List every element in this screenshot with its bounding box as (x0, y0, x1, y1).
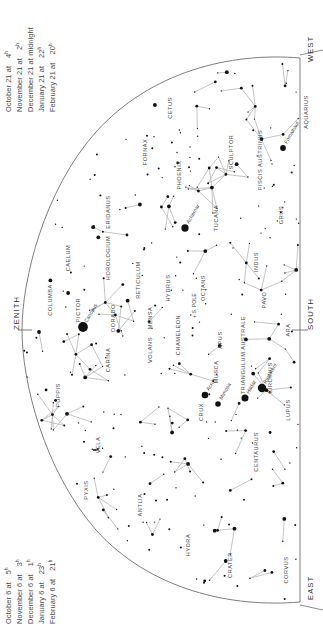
field-star (70, 372, 71, 373)
field-star (35, 337, 37, 339)
field-star (179, 262, 181, 264)
field-star (71, 374, 73, 376)
field-star (203, 580, 206, 583)
field-star (271, 571, 274, 574)
constellation-line (169, 206, 175, 222)
constellation-line (72, 354, 76, 375)
field-star (27, 376, 28, 377)
field-star (260, 232, 261, 233)
star-label-achernar: Achernar (185, 203, 201, 224)
field-star (165, 228, 166, 229)
bright-star-acrux (202, 392, 209, 399)
field-star (258, 277, 260, 279)
field-star (210, 186, 214, 190)
field-star (63, 425, 65, 427)
field-star (190, 170, 191, 171)
field-star (141, 446, 142, 447)
field-star (176, 152, 177, 153)
field-star (231, 420, 232, 421)
field-star (267, 337, 271, 341)
field-star (281, 482, 284, 485)
constellation-line (212, 174, 226, 187)
constellation-label-hydra: HYDRA (185, 534, 191, 556)
field-star (272, 186, 273, 187)
field-star (196, 278, 197, 279)
field-star (122, 335, 123, 336)
field-star (221, 516, 223, 518)
field-star (169, 368, 171, 370)
constellation-line (296, 245, 298, 270)
field-star (138, 203, 142, 207)
date-time-row: February 6 at21h (48, 560, 57, 624)
horizon-arc-group (18, 50, 323, 610)
field-star (285, 294, 286, 295)
field-star (229, 242, 231, 244)
field-star (178, 427, 179, 428)
field-star (151, 242, 152, 243)
bright-star-hadar (241, 394, 248, 401)
field-star (293, 361, 296, 364)
field-star (198, 158, 200, 160)
field-star (119, 209, 120, 210)
field-star (269, 431, 272, 434)
field-star (272, 485, 274, 487)
field-star (125, 139, 126, 140)
constellation-line (255, 106, 256, 119)
constellation-label-pictor: PICTOR (75, 298, 81, 322)
constellation-label-phoenix: PHOENIX (176, 160, 182, 189)
date-text: January 6 at (37, 582, 46, 624)
field-star (247, 176, 248, 177)
field-star (209, 580, 210, 581)
field-star (207, 182, 209, 184)
field-star (144, 493, 146, 495)
field-star (113, 489, 114, 490)
field-star (51, 413, 54, 416)
constellation-line (85, 377, 108, 380)
constellation-line (230, 529, 234, 555)
constellation-line (150, 474, 164, 483)
constellation-line (105, 285, 123, 303)
field-star (154, 424, 155, 425)
field-star (114, 414, 115, 415)
constellation-line (237, 164, 248, 177)
constellation-line (244, 263, 246, 283)
field-star (271, 163, 272, 164)
constellation-label-vela: VELA (95, 437, 101, 454)
field-star (287, 70, 288, 71)
field-star (268, 357, 271, 360)
cardinal-label-zenith: ZENITH (12, 296, 21, 330)
field-star (170, 431, 174, 435)
constellation-line (76, 334, 79, 354)
field-star (158, 168, 160, 170)
field-star (76, 483, 78, 485)
constellation-label-horologium: HOROLOGIUM (105, 236, 111, 280)
field-star (245, 119, 247, 121)
field-star (63, 290, 64, 291)
constellation-label-piscis-austrinus: PISCIS AUSTRINUS (257, 130, 263, 191)
field-star (281, 281, 282, 282)
field-star (265, 228, 266, 229)
constellation-line (147, 523, 153, 535)
constellation-label-cetus: CETUS (167, 97, 173, 119)
field-star (78, 333, 80, 335)
field-star (213, 529, 217, 533)
field-star (147, 174, 149, 176)
field-star (186, 419, 189, 422)
constellation-label-lupus: LUPUS (285, 399, 291, 420)
constellation-line (273, 483, 283, 486)
field-star (197, 187, 198, 188)
field-star (188, 188, 189, 189)
field-star (284, 201, 285, 202)
constellation-line (197, 106, 198, 128)
constellation-line (255, 322, 279, 324)
field-star (282, 133, 285, 136)
date-text: December 6 at (26, 574, 35, 624)
constellation-line (230, 479, 251, 490)
field-star (295, 91, 296, 92)
field-star (102, 509, 105, 512)
field-star (298, 118, 299, 119)
field-star (294, 524, 296, 526)
field-star (125, 456, 126, 457)
field-star (168, 528, 170, 530)
field-star (95, 365, 96, 366)
